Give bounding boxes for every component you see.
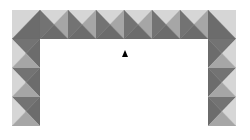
pyramid-tile-icon: [40, 10, 68, 39]
tile-corner-top-right[interactable]: [208, 10, 236, 39]
tile-top[interactable]: [124, 10, 152, 39]
triangle-pointer-icon: [122, 50, 128, 57]
pyramid-tile-icon: [208, 68, 236, 97]
tile-corner-top-left[interactable]: [12, 10, 40, 39]
pyramid-tile-icon: [152, 10, 180, 39]
game-board[interactable]: [0, 0, 250, 140]
tile-top[interactable]: [96, 10, 124, 39]
pyramid-tile-icon: [208, 39, 236, 68]
tile-top[interactable]: [40, 10, 68, 39]
tile-left[interactable]: [12, 68, 40, 97]
pyramid-tile-icon: [12, 39, 40, 68]
pyramid-tile-icon: [208, 10, 236, 39]
tile-right[interactable]: [208, 97, 236, 126]
tile-left[interactable]: [12, 97, 40, 126]
pyramid-tile-icon: [124, 10, 152, 39]
pyramid-tile-icon: [12, 10, 40, 39]
pyramid-tile-icon: [208, 97, 236, 126]
tile-right[interactable]: [208, 39, 236, 68]
tile-top[interactable]: [180, 10, 208, 39]
tile-right[interactable]: [208, 68, 236, 97]
pyramid-tile-icon: [12, 68, 40, 97]
pyramid-tile-icon: [180, 10, 208, 39]
pyramid-tile-icon: [96, 10, 124, 39]
tile-top[interactable]: [68, 10, 96, 39]
tile-left[interactable]: [12, 39, 40, 68]
pyramid-tile-icon: [12, 97, 40, 126]
pyramid-tile-icon: [68, 10, 96, 39]
tile-top[interactable]: [152, 10, 180, 39]
